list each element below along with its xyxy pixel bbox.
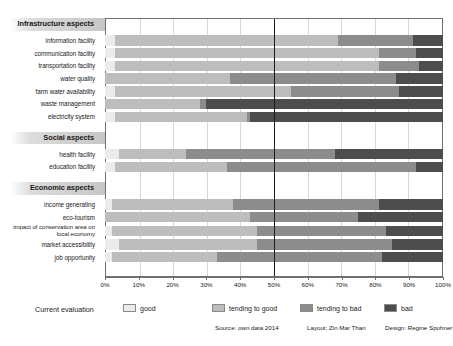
bar-segment-tending-bad: [250, 212, 358, 222]
bar-segment-tending-good: [105, 99, 200, 109]
bar-row: health facility: [0, 148, 453, 160]
bar-segment-bad: [416, 162, 443, 172]
legend-swatch: [212, 304, 225, 312]
bar-segment-good: [105, 199, 112, 209]
bar-segment-good: [105, 86, 115, 96]
bar-segment-tending-good: [119, 239, 258, 249]
bar-row: electricity system: [0, 111, 453, 123]
x-axis-tick: [308, 277, 309, 280]
bar-segment-bad: [382, 252, 443, 262]
bar-row: transportation facility: [0, 60, 453, 72]
bar-segment-tending-good: [115, 86, 291, 96]
x-axis-tick-label: 10%: [133, 281, 145, 288]
bar-segment-tending-good: [112, 252, 217, 262]
bar-segment-tending-bad: [200, 99, 207, 109]
chart-legend: Current evaluation goodtending to goodte…: [0, 301, 453, 319]
bar-segment-tending-good: [115, 162, 227, 172]
row-spacer: [0, 145, 453, 147]
bar-row-label: transportation facility: [0, 60, 99, 72]
x-axis-tick: [173, 277, 174, 280]
bar-segment-good: [105, 149, 119, 159]
bar-row: communication facility: [0, 47, 453, 59]
bar-segment-tending-good: [112, 199, 234, 209]
bar-segment-tending-good: [115, 61, 379, 71]
x-axis-tick-label: 50%: [268, 281, 280, 288]
bar-segment-tending-bad: [291, 86, 399, 96]
legend-title: Current evaluation: [35, 305, 94, 314]
row-spacer: [0, 174, 453, 181]
x-axis-tick-label: 20%: [166, 281, 178, 288]
bar-row-label: waste management: [0, 98, 99, 110]
chart-rows: Infrastructure aspectsinformation facili…: [0, 18, 453, 264]
x-axis-tick: [375, 277, 376, 280]
bar-row: water quality: [0, 73, 453, 85]
bar-row: income generating: [0, 199, 453, 211]
bar-row-label: information facility: [0, 35, 99, 47]
group-header-row: Economic aspects: [0, 182, 453, 195]
bar-segment-tending-bad: [379, 61, 420, 71]
bar-row: job opportunity: [0, 251, 453, 263]
bar-segment-bad: [335, 149, 443, 159]
bar-segment-bad: [419, 61, 443, 71]
bar-segment-tending-bad: [233, 199, 378, 209]
bar-segment-bad: [206, 99, 443, 109]
x-axis-tick: [240, 277, 241, 280]
row-spacer: [0, 124, 453, 131]
bar-segment-tending-good: [112, 226, 257, 236]
bar-segment-good: [105, 226, 112, 236]
bar-row: eco-tourism: [0, 211, 453, 223]
bar-row-label: eco-tourism: [0, 211, 99, 223]
bar-row: farm water availability: [0, 86, 453, 98]
bar-row-label: water quality: [0, 73, 99, 85]
bar-segment-tending-good: [105, 73, 230, 83]
x-axis-tick-label: 0%: [101, 281, 110, 288]
bar-segment-bad: [250, 112, 443, 122]
bar-segment-tending-bad: [379, 48, 416, 58]
legend-item-bad[interactable]: bad: [384, 304, 413, 312]
legend-swatch: [300, 304, 313, 312]
bar-segment-tending-good: [115, 35, 338, 45]
bar-segment-good: [105, 239, 119, 249]
bar-segment-tending-bad: [186, 149, 335, 159]
bar-segment-bad: [392, 239, 443, 249]
bar-segment-tending-good: [119, 149, 187, 159]
bar-row-label: job opportunity: [0, 251, 99, 263]
bar-segment-tending-good: [115, 48, 379, 58]
group-label: Economic aspects: [0, 182, 99, 195]
bar-segment-bad: [399, 86, 443, 96]
x-axis-tick-label: 30%: [200, 281, 212, 288]
bar-segment-good: [105, 61, 115, 71]
bar-segment-bad: [413, 35, 443, 45]
row-spacer: [0, 196, 453, 198]
bar-row-label: farm water availability: [0, 86, 99, 98]
bar-segment-tending-bad: [217, 252, 383, 262]
credit-layout: Layout: Zin Mar Than: [307, 324, 366, 331]
legend-item-tending-to-good[interactable]: tending to good: [212, 304, 277, 312]
x-axis: 0%10%20%30%40%50%60%70%80%90%100%: [105, 277, 443, 293]
chart-credits: Source: own data 2014 Layout: Zin Mar Th…: [0, 324, 453, 338]
bar-segment-tending-bad: [257, 226, 385, 236]
bar-segment-tending-good: [115, 112, 247, 122]
stacked-bar-chart: Infrastructure aspectsinformation facili…: [0, 0, 453, 346]
x-axis-tick: [105, 277, 106, 280]
bar-segment-good: [105, 35, 115, 45]
row-spacer: [0, 32, 453, 34]
x-axis-tick: [274, 277, 275, 280]
x-axis-tick: [139, 277, 140, 280]
bar-segment-bad: [416, 48, 443, 58]
bar-segment-bad: [396, 73, 443, 83]
bar-segment-tending-bad: [230, 73, 396, 83]
bar-row-label: impact of conservation area on local eco…: [0, 224, 99, 238]
bar-row-label: market accessibility: [0, 239, 99, 251]
bar-row: waste management: [0, 98, 453, 110]
group-header-row: Infrastructure aspects: [0, 18, 453, 31]
x-axis-tick-label: 100%: [435, 281, 451, 288]
legend-label: bad: [401, 305, 413, 312]
x-axis-tick: [342, 277, 343, 280]
x-axis-tick-label: 40%: [234, 281, 246, 288]
legend-label: good: [140, 305, 156, 312]
legend-item-good[interactable]: good: [123, 304, 156, 312]
legend-swatch: [384, 304, 397, 312]
legend-item-tending-to-bad[interactable]: tending to bad: [300, 304, 361, 312]
bar-row: information facility: [0, 35, 453, 47]
